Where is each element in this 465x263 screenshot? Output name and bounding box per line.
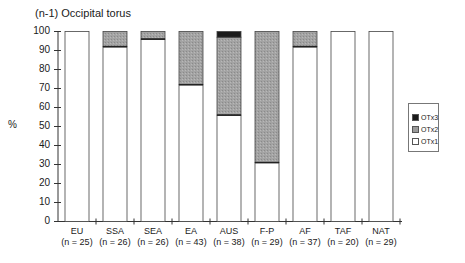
y-tick-label: 40 <box>26 139 50 150</box>
category-sample-size: (n = 29) <box>247 237 287 248</box>
bar-ea <box>179 32 203 222</box>
category-name: EU <box>57 226 97 237</box>
category-sample-size: (n = 43) <box>171 237 211 248</box>
category-sample-size: (n = 25) <box>57 237 97 248</box>
y-tick-label: 20 <box>26 177 50 188</box>
category-sample-size: (n = 37) <box>285 237 325 248</box>
bar-segment-otx2 <box>141 32 165 40</box>
bar-ssa <box>103 32 127 222</box>
bar-segment-otx1 <box>255 163 279 222</box>
category-sample-size: (n = 29) <box>361 237 401 248</box>
bar-eu <box>65 32 89 222</box>
category-sample-size: (n = 26) <box>95 237 135 248</box>
bar-segment-otx1 <box>217 115 241 221</box>
bar-segment-otx2 <box>103 32 127 47</box>
category-name: NAT <box>361 226 401 237</box>
bar-segment-otx2 <box>217 37 241 115</box>
bars <box>65 32 393 222</box>
x-category-label: AF(n = 37) <box>285 226 325 248</box>
bar-segment-otx2 <box>293 32 317 47</box>
category-sample-size: (n = 20) <box>323 237 363 248</box>
category-sample-size: (n = 38) <box>209 237 249 248</box>
bar-segment-otx1 <box>179 85 203 222</box>
chart-plot-area <box>0 0 465 263</box>
y-tick-label: 70 <box>26 82 50 93</box>
bar-segment-otx1 <box>331 32 355 222</box>
x-category-label: NAT(n = 29) <box>361 226 401 248</box>
bar-segment-otx2 <box>179 32 203 85</box>
bar-segment-otx1 <box>141 39 165 221</box>
category-name: AUS <box>209 226 249 237</box>
legend: OTx3 OTx2 OTx1 <box>408 103 439 152</box>
legend-swatch-otx3 <box>412 114 419 121</box>
category-sample-size: (n = 26) <box>133 237 173 248</box>
legend-label: OTx1 <box>421 138 438 145</box>
bar-sea <box>141 32 165 222</box>
bar-af <box>293 32 317 222</box>
category-name: TAF <box>323 226 363 237</box>
x-category-label: TAF(n = 20) <box>323 226 363 248</box>
legend-label: OTx3 <box>421 114 438 121</box>
category-name: EA <box>171 226 211 237</box>
category-name: F-P <box>247 226 287 237</box>
legend-swatch-otx2 <box>412 126 419 133</box>
y-tick-label: 10 <box>26 196 50 207</box>
x-category-label: SEA(n = 26) <box>133 226 173 248</box>
bar-segment-otx1 <box>293 47 317 222</box>
bar-taf <box>331 32 355 222</box>
y-tick-label: 0 <box>26 215 50 226</box>
bar-nat <box>369 32 393 222</box>
x-category-label: AUS(n = 38) <box>209 226 249 248</box>
x-category-label: F-P(n = 29) <box>247 226 287 248</box>
legend-item-otx1: OTx1 <box>412 138 438 145</box>
bar-segment-otx2 <box>255 32 279 163</box>
y-tick-label: 30 <box>26 158 50 169</box>
bar-aus <box>217 32 241 222</box>
legend-item-otx2: OTx2 <box>412 126 438 133</box>
y-tick-label: 50 <box>26 120 50 131</box>
legend-item-otx3: OTx3 <box>412 114 438 121</box>
category-name: SSA <box>95 226 135 237</box>
x-category-label: EA(n = 43) <box>171 226 211 248</box>
category-name: AF <box>285 226 325 237</box>
legend-label: OTx2 <box>421 126 438 133</box>
bar-segment-otx1 <box>65 32 89 222</box>
bar-segment-otx3 <box>217 32 241 38</box>
x-category-label: EU(n = 25) <box>57 226 97 248</box>
bar-f-p <box>255 32 279 222</box>
y-tick-label: 100 <box>26 25 50 36</box>
y-tick-label: 90 <box>26 44 50 55</box>
legend-swatch-otx1 <box>412 138 419 145</box>
category-name: SEA <box>133 226 173 237</box>
y-tick-label: 60 <box>26 101 50 112</box>
bar-segment-otx1 <box>103 47 127 222</box>
bar-segment-otx1 <box>369 32 393 222</box>
x-category-label: SSA(n = 26) <box>95 226 135 248</box>
y-tick-label: 80 <box>26 63 50 74</box>
